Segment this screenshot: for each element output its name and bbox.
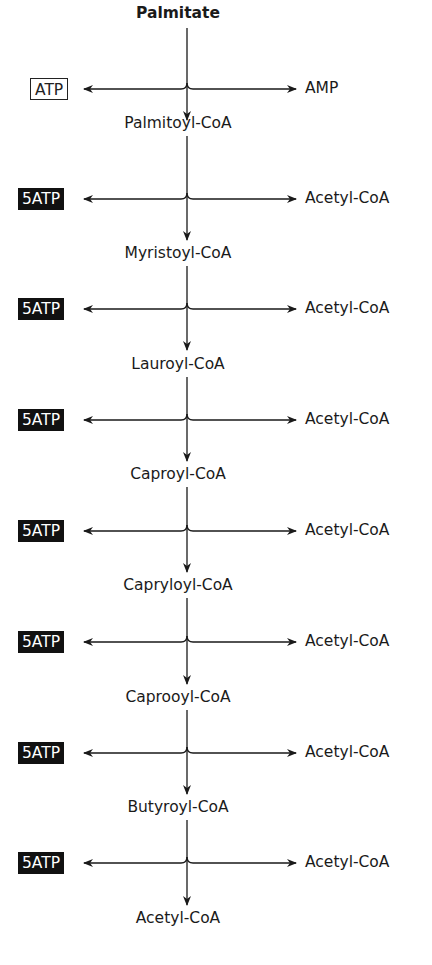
atp-yield-box-3: 5ATP xyxy=(18,409,64,431)
node-lauroyl-coa: Lauroyl-CoA xyxy=(0,355,356,373)
acetyl-coa-product-7: Acetyl-CoA xyxy=(305,853,389,871)
node-caproyl-coa: Caproyl-CoA xyxy=(0,465,356,483)
node-palmitate: Palmitate xyxy=(0,4,356,22)
acetyl-coa-product-2: Acetyl-CoA xyxy=(305,299,389,317)
node-capryloyl-coa: Capryloyl-CoA xyxy=(0,576,356,594)
atp-input-box: ATP xyxy=(30,78,68,100)
acetyl-coa-product-4: Acetyl-CoA xyxy=(305,521,389,539)
acetyl-coa-product-1: Acetyl-CoA xyxy=(305,189,389,207)
atp-yield-box-1: 5ATP xyxy=(18,188,64,210)
atp-yield-box-2: 5ATP xyxy=(18,298,64,320)
atp-yield-box-7: 5ATP xyxy=(18,852,64,874)
node-acetyl-coa-final: Acetyl-CoA xyxy=(0,909,356,927)
node-palmitoyl-coa: Palmitoyl-CoA xyxy=(0,114,356,132)
atp-yield-box-5: 5ATP xyxy=(18,631,64,653)
atp-yield-box-4: 5ATP xyxy=(18,520,64,542)
node-caprooyl-coa: Caprooyl-CoA xyxy=(0,688,356,706)
acetyl-coa-product-6: Acetyl-CoA xyxy=(305,743,389,761)
atp-yield-box-6: 5ATP xyxy=(18,742,64,764)
acetyl-coa-product-5: Acetyl-CoA xyxy=(305,632,389,650)
amp-product: AMP xyxy=(305,79,338,97)
acetyl-coa-product-3: Acetyl-CoA xyxy=(305,410,389,428)
node-myristoyl-coa: Myristoyl-CoA xyxy=(0,244,356,262)
node-butyroyl-coa: Butyroyl-CoA xyxy=(0,798,356,816)
